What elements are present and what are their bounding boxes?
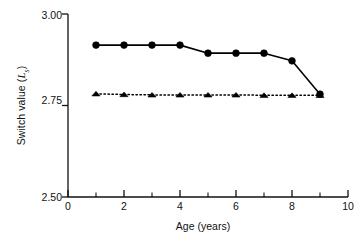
- x-tick-label-10: 10: [335, 200, 361, 212]
- x-axis-tick-labels: 0 2 4 6 8 10: [0, 0, 364, 244]
- x-tick-label-0: 0: [55, 200, 81, 212]
- x-tick-label-6: 6: [223, 200, 249, 212]
- x-tick-label-8: 8: [279, 200, 305, 212]
- x-axis-label-text: Age (years): [176, 220, 230, 232]
- x-tick-label-4: 4: [167, 200, 193, 212]
- chart-figure: Switch value (Ls) 3.00 2.75 2.50 0 2 4 6…: [0, 0, 364, 244]
- x-axis-label: Age (years): [0, 220, 364, 232]
- x-tick-label-2: 2: [111, 200, 137, 212]
